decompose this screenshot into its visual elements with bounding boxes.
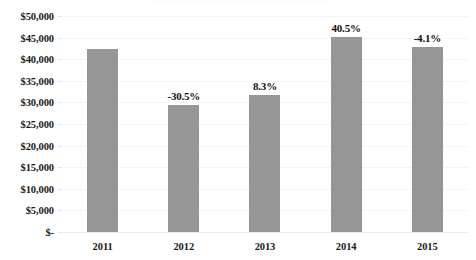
bar-slot: 40.5% [306, 16, 387, 232]
y-axis-tick-label: $25,000 [21, 119, 54, 130]
y-axis-tick-label: $40,000 [21, 54, 54, 65]
bar [249, 95, 280, 232]
x-axis-category-label: 2011 [93, 241, 113, 252]
x-axis-labels: 20112012201320142015 [62, 236, 468, 254]
bar [412, 47, 443, 232]
y-axis-tick-mark [58, 59, 62, 60]
y-axis-tick-mark [58, 81, 62, 82]
y-axis-tick-label: $35,000 [21, 75, 54, 86]
bar [331, 37, 362, 232]
y-axis-tick-mark [58, 16, 62, 17]
y-axis-tick-label: $- [45, 227, 54, 238]
x-axis-slot: 2014 [306, 236, 387, 254]
bar-data-label: 40.5% [332, 22, 361, 34]
bar-series: -30.5%8.3%40.5%-4.1% [62, 16, 468, 232]
bar-slot: 8.3% [224, 16, 305, 232]
bar-data-label: -30.5% [167, 90, 200, 102]
x-axis-slot: 2015 [387, 236, 468, 254]
y-axis-tick-mark [58, 189, 62, 190]
y-axis-tick-mark [58, 146, 62, 147]
x-axis-category-label: 2014 [336, 241, 357, 252]
bar [168, 105, 199, 232]
x-axis-category-label: 2015 [417, 241, 438, 252]
bar-chart: $50,000$45,000$40,000$35,000$30,000$25,0… [0, 0, 476, 260]
bar-slot: -30.5% [143, 16, 224, 232]
x-axis-category-label: 2012 [173, 241, 194, 252]
x-axis-slot: 2013 [224, 236, 305, 254]
y-axis-tick-label: $50,000 [21, 11, 54, 22]
y-axis-tick-mark [58, 210, 62, 211]
y-axis-tick-mark [58, 102, 62, 103]
bar-data-label: -4.1% [414, 32, 441, 44]
bar-data-label: 8.3% [253, 80, 277, 92]
clipped-title-remnant [150, 0, 330, 4]
axis-baseline [62, 232, 468, 233]
x-axis-slot: 2012 [143, 236, 224, 254]
y-axis-tick-label: $20,000 [21, 140, 54, 151]
y-axis-tick-label: $5,000 [26, 205, 54, 216]
x-axis-slot: 2011 [62, 236, 143, 254]
y-axis-tick-mark [58, 232, 62, 233]
y-axis-tick-mark [58, 38, 62, 39]
plot-area: -30.5%8.3%40.5%-4.1% [62, 16, 468, 232]
x-axis-category-label: 2013 [255, 241, 276, 252]
bar-slot [62, 16, 143, 232]
bar [87, 49, 118, 232]
y-axis-labels: $50,000$45,000$40,000$35,000$30,000$25,0… [0, 16, 62, 232]
y-axis-tick-label: $15,000 [21, 162, 54, 173]
y-axis-tick-label: $10,000 [21, 183, 54, 194]
bar-slot: -4.1% [387, 16, 468, 232]
y-axis-tick-mark [58, 167, 62, 168]
y-axis-tick-mark [58, 124, 62, 125]
y-axis-tick-label: $45,000 [21, 32, 54, 43]
y-axis-tick-label: $30,000 [21, 97, 54, 108]
